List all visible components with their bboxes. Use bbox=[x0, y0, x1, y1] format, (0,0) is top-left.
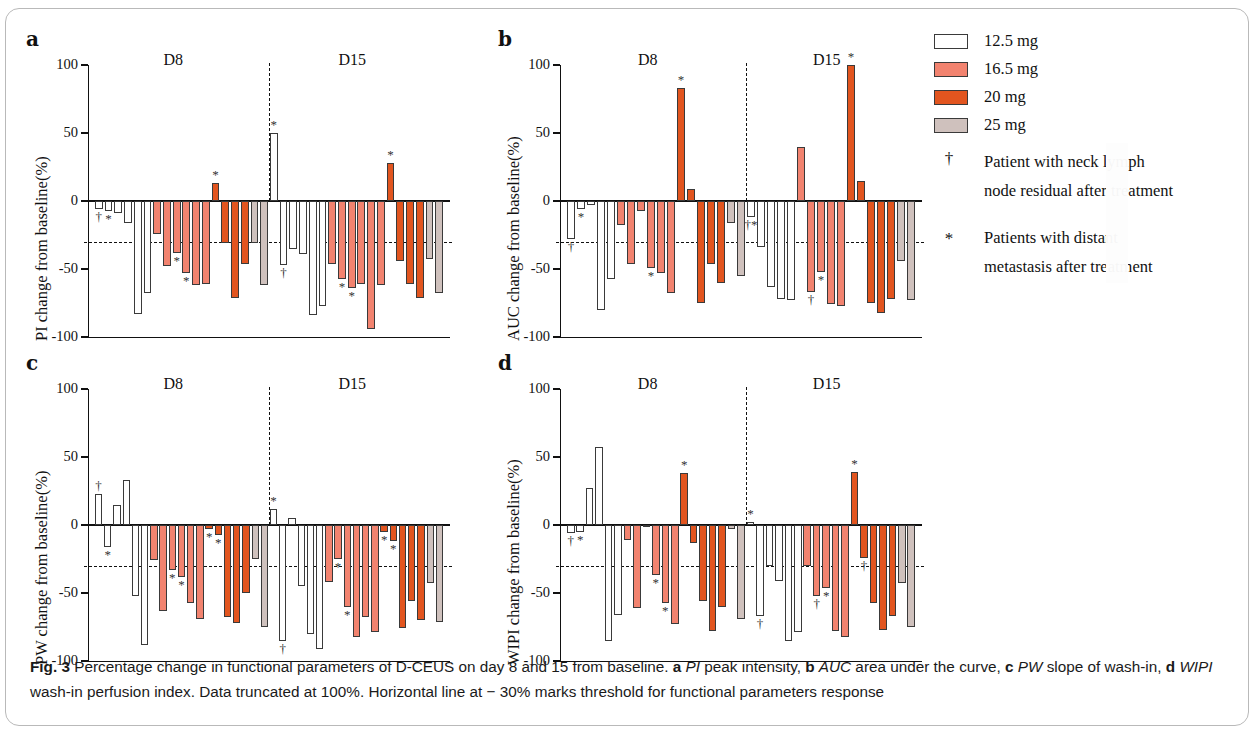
legend-swatch-12-5-mg bbox=[934, 34, 968, 49]
caption-segment: AUC bbox=[819, 658, 851, 675]
asterisk-marker: * bbox=[97, 212, 121, 225]
bar bbox=[817, 201, 825, 272]
caption-segment: c bbox=[1005, 658, 1014, 675]
bar bbox=[233, 525, 240, 623]
asterisk-marker: * bbox=[843, 457, 867, 470]
bar bbox=[408, 525, 415, 601]
day-label-b-D8: D8 bbox=[638, 51, 658, 69]
bar bbox=[173, 201, 181, 253]
figure-caption: Fig. 3 Percentage change in functional p… bbox=[30, 654, 1235, 704]
scan-crease bbox=[1106, 143, 1128, 283]
asterisk-marker: * bbox=[568, 533, 592, 546]
bar bbox=[777, 201, 785, 299]
caption-segment: WIPI bbox=[1179, 658, 1212, 675]
bar bbox=[747, 522, 755, 525]
bar bbox=[690, 525, 698, 543]
bar bbox=[319, 201, 327, 306]
bar bbox=[298, 525, 305, 586]
bar bbox=[680, 473, 688, 525]
bar bbox=[794, 525, 802, 632]
bar bbox=[607, 201, 615, 279]
bar bbox=[95, 201, 103, 209]
bar bbox=[141, 525, 148, 645]
bar bbox=[279, 525, 286, 641]
caption-segment: PW bbox=[1018, 658, 1043, 675]
bar bbox=[877, 201, 885, 313]
bar bbox=[95, 494, 102, 525]
bar bbox=[242, 525, 249, 593]
bar bbox=[614, 525, 622, 615]
bar bbox=[707, 201, 715, 264]
bar bbox=[627, 201, 635, 264]
legend-swatch-16-5-mg bbox=[934, 62, 968, 77]
bar bbox=[289, 201, 297, 249]
dagger-marker: † bbox=[87, 479, 111, 492]
asterisk-marker: * bbox=[569, 210, 593, 223]
legend-item-20-mg: 20 mg bbox=[934, 87, 1026, 107]
bar bbox=[104, 525, 111, 547]
asterisk-marker: * bbox=[262, 494, 286, 507]
bar bbox=[251, 201, 259, 243]
bar bbox=[187, 525, 194, 603]
bar bbox=[577, 201, 585, 209]
panel-d: dWIPI change from baseline(%)100500-50-1… bbox=[484, 347, 954, 667]
bar bbox=[270, 509, 277, 525]
bar bbox=[348, 201, 356, 288]
panel-a: aPI change from baseline(%)100500-50-100… bbox=[12, 23, 482, 343]
bar bbox=[362, 525, 369, 617]
bar bbox=[153, 201, 161, 234]
bars-layer-d: †*****††**† bbox=[484, 347, 954, 667]
bar bbox=[718, 525, 726, 607]
bar bbox=[212, 183, 220, 201]
bar bbox=[671, 525, 679, 624]
bar bbox=[907, 201, 915, 300]
bar bbox=[215, 525, 222, 535]
bar bbox=[221, 201, 229, 243]
bar bbox=[309, 201, 317, 315]
bar bbox=[241, 201, 249, 264]
bar bbox=[879, 525, 887, 630]
day-label-b-D15: D15 bbox=[813, 51, 841, 69]
legend-label: 20 mg bbox=[984, 87, 1026, 107]
dagger-marker: † bbox=[559, 240, 583, 253]
bar bbox=[328, 201, 336, 264]
asterisk-marker: * bbox=[669, 73, 693, 86]
bars-layer-b: †***†*†** bbox=[484, 23, 954, 343]
bar bbox=[144, 201, 152, 293]
bar bbox=[150, 525, 157, 560]
bar bbox=[124, 201, 132, 223]
bar bbox=[576, 525, 584, 532]
bar bbox=[756, 525, 764, 616]
bar bbox=[870, 525, 878, 603]
bar bbox=[307, 525, 314, 634]
bar bbox=[662, 525, 670, 603]
asterisk-marker: * bbox=[262, 118, 286, 131]
bar bbox=[887, 201, 895, 299]
dagger-marker: † bbox=[799, 293, 823, 306]
bars-layer-c: †******†**** bbox=[12, 347, 482, 667]
panel-c: cPW change from baseline(%)100500-50-100… bbox=[12, 347, 482, 667]
bar bbox=[426, 201, 434, 259]
bar bbox=[280, 201, 288, 265]
bar bbox=[728, 525, 736, 529]
bar bbox=[647, 201, 655, 268]
bar bbox=[132, 525, 139, 596]
bar bbox=[697, 201, 705, 303]
caption-segment: d bbox=[1166, 658, 1175, 675]
bar bbox=[803, 525, 811, 566]
bar bbox=[252, 525, 259, 559]
bar bbox=[202, 201, 210, 284]
bar bbox=[113, 505, 120, 525]
bar bbox=[367, 201, 375, 329]
bar bbox=[231, 201, 239, 298]
bar bbox=[299, 201, 307, 254]
bar bbox=[857, 181, 865, 201]
bar bbox=[399, 525, 406, 628]
bar bbox=[325, 525, 332, 582]
day-split-line-a bbox=[269, 63, 270, 201]
day-split-line-c bbox=[269, 387, 270, 525]
bar bbox=[637, 201, 645, 211]
caption-segment: b bbox=[805, 658, 814, 675]
bar bbox=[416, 201, 424, 298]
bar bbox=[767, 201, 775, 287]
